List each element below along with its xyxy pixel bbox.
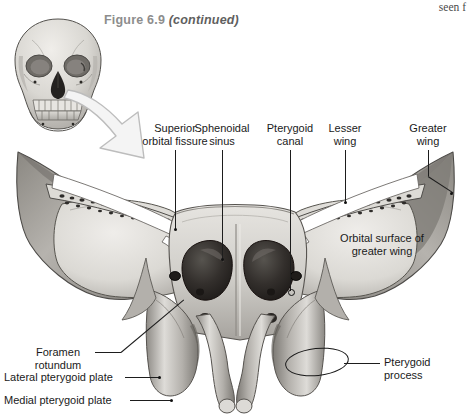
adjacent-column-text: seen f bbox=[439, 1, 466, 13]
label-orbital-surface-of-greater-wing: Orbital surface of greater wing bbox=[340, 232, 424, 257]
label-orbital-surface-line2: greater wing bbox=[340, 245, 424, 258]
label-pterygoid-process: Pterygoid process bbox=[384, 356, 430, 381]
figure-page: seen f Figure 6.9 (continued) bbox=[0, 0, 471, 417]
label-medial-pterygoid-plate: Medial pterygoid plate bbox=[4, 394, 112, 407]
label-sphenoidal-sinus-line2: sinus bbox=[194, 135, 249, 148]
leader-lateral-pterygoid-plate bbox=[125, 377, 160, 378]
label-orbital-surface-line1: Orbital surface of bbox=[340, 232, 424, 245]
label-sphenoidal-sinus-line1: Sphenoidal bbox=[194, 122, 249, 135]
leader-greater-wing bbox=[428, 150, 429, 176]
label-pterygoid-canal-line2: canal bbox=[267, 135, 313, 148]
leader-foramen-rotundum-horizontal bbox=[95, 352, 121, 353]
leader-sphenoidal-sinus bbox=[222, 150, 223, 260]
label-lesser-wing-line1: Lesser bbox=[328, 122, 361, 135]
leader-pterygoid-canal bbox=[290, 150, 291, 291]
label-medial-pterygoid-plate-line1: Medial pterygoid plate bbox=[4, 394, 112, 407]
label-lateral-pterygoid-plate-line1: Lateral pterygoid plate bbox=[4, 371, 113, 384]
label-foramen-rotundum-line2: rotundum bbox=[35, 359, 81, 372]
leader-lesser-wing bbox=[345, 150, 346, 203]
leader-dot-greater-wing bbox=[450, 192, 453, 195]
label-lesser-wing-line2: wing bbox=[328, 135, 361, 148]
leader-pterygoid-process bbox=[344, 363, 380, 364]
leader-dot-superior-orbital-fissure bbox=[174, 228, 177, 231]
label-greater-wing-line1: Greater bbox=[409, 122, 446, 135]
leader-ring-pterygoid-canal bbox=[288, 289, 295, 296]
figure-caption: Figure 6.9 (continued) bbox=[104, 13, 239, 27]
label-sphenoidal-sinus: Sphenoidal sinus bbox=[194, 122, 249, 147]
label-lateral-pterygoid-plate: Lateral pterygoid plate bbox=[4, 371, 113, 384]
label-pterygoid-process-line2: process bbox=[384, 369, 430, 382]
label-foramen-rotundum: Foramen rotundum bbox=[35, 346, 81, 371]
label-pterygoid-canal-line1: Pterygoid bbox=[267, 122, 313, 135]
figure-caption-continued: (continued) bbox=[169, 13, 239, 27]
leader-superior-orbital-fissure bbox=[175, 150, 176, 230]
label-foramen-rotundum-line1: Foramen bbox=[35, 346, 81, 359]
leader-dot-lateral-pterygoid-plate bbox=[158, 376, 161, 379]
label-pterygoid-process-line1: Pterygoid bbox=[384, 356, 430, 369]
label-greater-wing-line2: wing bbox=[409, 135, 446, 148]
leader-dot-medial-pterygoid-plate bbox=[170, 399, 173, 402]
leader-medial-pterygoid-plate bbox=[130, 400, 172, 401]
leader-dot-sphenoidal-sinus bbox=[221, 258, 224, 261]
label-lesser-wing: Lesser wing bbox=[328, 122, 361, 147]
label-pterygoid-canal: Pterygoid canal bbox=[267, 122, 313, 147]
leader-dot-lesser-wing bbox=[344, 201, 347, 204]
label-greater-wing: Greater wing bbox=[409, 122, 446, 147]
